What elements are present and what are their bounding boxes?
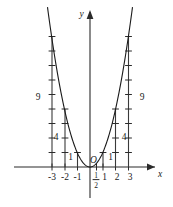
- y-axis-arrowhead: [87, 10, 94, 19]
- axis-group: [14, 10, 155, 198]
- figure-canvas: -3 -2 -1 1 2 3 1 2 O y x 9 4 1 1 4 9: [0, 0, 173, 207]
- one-half-numerator: 1: [94, 171, 98, 180]
- x-label-minus3: -3: [48, 172, 56, 182]
- ordinate-label-left-1: 1: [68, 152, 73, 162]
- math-figure-parabola: -3 -2 -1 1 2 3 1 2 O y x 9 4 1 1 4 9: [0, 0, 173, 207]
- ordinate-label-right-1: 1: [108, 152, 113, 162]
- ordinate-segment-1: [100, 153, 107, 168]
- ordinate-label-right-9: 9: [140, 92, 145, 102]
- ordinate-label-right-4: 4: [122, 132, 127, 142]
- x-axis-label: x: [157, 169, 163, 179]
- ordinate-label-left-9: 9: [36, 92, 41, 102]
- x-label-minus1: -1: [74, 172, 82, 182]
- origin-label: O: [90, 155, 97, 165]
- ordinate-segment-minus1: [74, 153, 81, 168]
- x-label-minus2: -2: [61, 172, 69, 182]
- ordinate-segment-3: [125, 37, 132, 168]
- one-half-denominator: 2: [94, 181, 98, 190]
- x-label-1: 1: [102, 172, 107, 182]
- x-label-one-half: 1 2: [93, 171, 100, 190]
- ordinate-label-left-4: 4: [54, 132, 59, 142]
- x-axis-arrowhead: [147, 164, 155, 171]
- y-axis-label: y: [78, 9, 84, 19]
- x-label-2: 2: [115, 172, 120, 182]
- x-label-3: 3: [128, 172, 133, 182]
